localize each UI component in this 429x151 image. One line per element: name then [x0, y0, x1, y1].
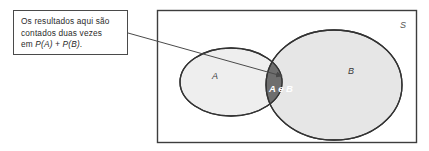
callout-line-3-suffix: . [80, 39, 82, 49]
annotation-callout: Os resultados aqui são contados duas vez… [13, 10, 128, 55]
callout-line-1: Os resultados aqui são [21, 16, 121, 28]
universe-label: S [400, 20, 406, 30]
set-b-label: B [348, 66, 354, 76]
intersection-label: A e B [268, 83, 293, 94]
callout-line-2: contados duas vezes [21, 28, 121, 40]
callout-line-3: em P(A) + P(B). [21, 39, 121, 51]
callout-line-3-prefix: em [21, 39, 35, 49]
set-a-label: A [211, 71, 218, 81]
venn-diagram-figure: S A B A e B Os resultados aqui são conta… [0, 0, 429, 151]
callout-line-3-math: P(A) + P(B) [35, 39, 79, 49]
